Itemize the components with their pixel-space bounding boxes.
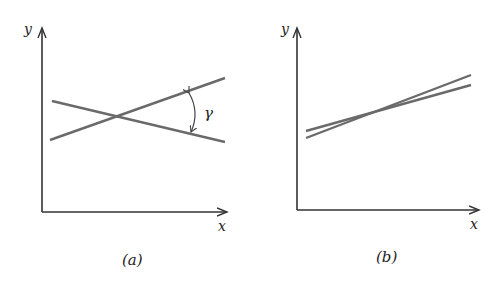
rising-line-a [50, 78, 225, 140]
panel-a: γ y x (a) [23, 21, 227, 269]
angle-arc-icon [189, 93, 195, 132]
angle-label-gamma: γ [204, 104, 213, 122]
caption-a: (a) [122, 251, 143, 269]
x-axis-label-a: x [218, 218, 226, 234]
x-axis-label-b: x [470, 216, 478, 232]
y-axis-label-b: y [280, 21, 290, 37]
y-axis-label-a: y [23, 21, 33, 37]
line-2-b [306, 75, 471, 138]
figure-canvas: γ y x (a) y x (b) [0, 0, 497, 281]
caption-b: (b) [376, 248, 397, 266]
falling-line-a [52, 101, 225, 142]
panel-b: y x (b) [280, 21, 479, 266]
line-1-b [306, 85, 471, 131]
